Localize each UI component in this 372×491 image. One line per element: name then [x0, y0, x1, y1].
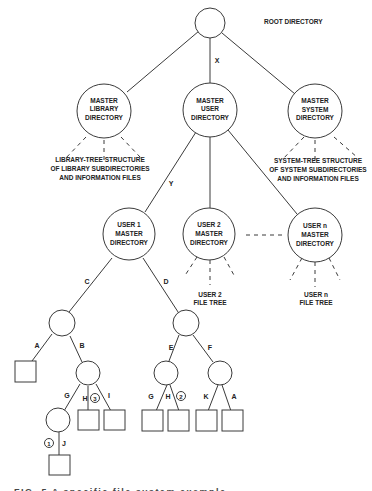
edge-d	[143, 258, 180, 315]
user2-subtree-edge	[224, 257, 235, 277]
svg-text:AND INFORMATION FILES: AND INFORMATION FILES	[59, 174, 141, 181]
usern-file-tree-caption: USER n FILE TREE	[299, 291, 333, 306]
marker-3: 3	[91, 394, 100, 403]
edge-label-g: G	[64, 392, 70, 399]
figure-caption: FIG. 5 A specific file system example	[14, 485, 226, 491]
directory-node-b	[76, 361, 100, 385]
usern-subtree-edge	[290, 258, 302, 280]
directory-node-g	[46, 408, 70, 432]
edge-label-c: C	[84, 278, 89, 285]
directory-node-e	[154, 361, 178, 385]
svg-text:DIRECTORY: DIRECTORY	[85, 114, 124, 121]
file-box-a2	[222, 410, 243, 431]
svg-text:USER 2: USER 2	[198, 291, 222, 298]
directory-node-c	[49, 310, 75, 336]
edge-label-e: E	[169, 344, 174, 351]
edge-label-k: K	[203, 393, 208, 400]
directory-tree-diagram: ROOT DIRECTORY MASTER LIBRARY DIRECTORY …	[0, 0, 372, 491]
user2-subtree-edge	[184, 257, 197, 277]
svg-text:MASTER: MASTER	[301, 97, 329, 104]
svg-text:FILE TREE: FILE TREE	[193, 299, 227, 306]
marker-1: 1	[45, 439, 54, 448]
svg-text:AND INFORMATION FILES: AND INFORMATION FILES	[277, 175, 359, 182]
edge-k	[208, 385, 218, 411]
library-subtree-edge	[121, 137, 141, 158]
svg-text:SYSTEM: SYSTEM	[302, 106, 329, 113]
svg-text:DIRECTORY: DIRECTORY	[191, 114, 230, 121]
edge-root-system	[222, 33, 295, 94]
svg-text:USER 1: USER 1	[117, 221, 141, 228]
system-subtree-caption: SYSTEM-TREE STRUCTURE OF SYSTEM SUBDIREC…	[269, 157, 367, 182]
svg-text:MASTER: MASTER	[195, 230, 223, 237]
svg-text:FILE TREE: FILE TREE	[299, 299, 333, 306]
library-subtree-caption: LIBRARY-TREE STRUCTURE OF LIBRARY SUBDIR…	[50, 156, 150, 181]
system-subtree-edge	[334, 137, 358, 158]
svg-text:DIRECTORY: DIRECTORY	[190, 239, 229, 246]
svg-text:LIBRARY: LIBRARY	[90, 105, 119, 112]
svg-text:USER n: USER n	[303, 222, 327, 229]
edge-c	[69, 258, 112, 312]
root-directory-node	[195, 8, 225, 38]
edge-label-j: J	[62, 440, 66, 447]
svg-text:OF SYSTEM SUBDIRECTORIES: OF SYSTEM SUBDIRECTORIES	[269, 166, 367, 173]
svg-text:MASTER: MASTER	[196, 97, 224, 104]
file-box-a	[15, 361, 36, 382]
edge-label-h2: H	[165, 393, 170, 400]
root-directory-label: ROOT DIRECTORY	[264, 18, 323, 25]
usern-subtree-edge	[329, 258, 340, 280]
svg-text:MASTER: MASTER	[301, 231, 329, 238]
file-box-h2	[168, 410, 189, 431]
directory-node-d	[173, 310, 199, 336]
svg-text:DIRECTORY: DIRECTORY	[296, 114, 335, 121]
edge-label-h: H	[82, 395, 87, 402]
edge-user-user1	[145, 132, 196, 212]
edge-label-i: I	[108, 392, 110, 399]
svg-text:SYSTEM-TREE STRUCTURE: SYSTEM-TREE STRUCTURE	[274, 157, 363, 164]
svg-text:USER: USER	[201, 105, 219, 112]
svg-text:DIRECTORY: DIRECTORY	[110, 239, 149, 246]
svg-text:MASTER: MASTER	[115, 230, 143, 237]
edge-label-y: Y	[169, 180, 174, 187]
svg-text:USER 2: USER 2	[197, 221, 221, 228]
edge-label-g2: G	[148, 393, 154, 400]
edge-label-x: X	[215, 57, 220, 64]
file-box-i	[104, 410, 125, 430]
file-box-g2	[142, 410, 163, 431]
svg-text:MASTER: MASTER	[90, 97, 118, 104]
svg-text:OF LIBRARY SUBDIRECTORIES: OF LIBRARY SUBDIRECTORIES	[50, 165, 150, 172]
svg-text:LIBRARY-TREE STRUCTURE: LIBRARY-TREE STRUCTURE	[55, 156, 145, 163]
edge-label-d: D	[163, 278, 168, 285]
file-box-k	[196, 410, 217, 431]
edge-label-f: F	[208, 344, 213, 351]
file-box-h	[78, 410, 99, 430]
user2-file-tree-caption: USER 2 FILE TREE	[193, 291, 227, 306]
svg-text:USER n: USER n	[304, 291, 328, 298]
edge-label-b: B	[79, 342, 84, 349]
marker-2: 2	[177, 392, 186, 401]
file-box-j	[49, 455, 70, 475]
edge-a2	[222, 385, 231, 411]
edge-label-a2: A	[231, 393, 236, 400]
directory-node-f	[208, 361, 232, 385]
edge-root-library	[127, 31, 199, 92]
edge-label-a: A	[34, 342, 39, 349]
edge-b	[70, 336, 82, 362]
svg-text:DIRECTORY: DIRECTORY	[296, 240, 335, 247]
